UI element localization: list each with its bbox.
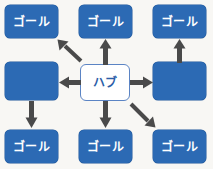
hub-and-spoke-diagram: ゴール ゴール ゴール ゴール ゴール ゴール ハブ [0, 0, 213, 169]
hub-label: ハブ [93, 77, 117, 89]
arrow-left-relay-to-bottom-left-icon [25, 101, 38, 128]
goal-node-top-left[interactable]: ゴール [5, 5, 58, 38]
arrow-right-relay-to-top-right-icon [173, 39, 186, 63]
arrow-hub-to-right-relay-icon [130, 76, 153, 89]
arrow-hub-to-bottom-center-icon [99, 101, 112, 128]
goal-node-bottom-left[interactable]: ゴール [5, 130, 58, 163]
relay-node-left[interactable] [5, 62, 58, 100]
goal-node-top-center[interactable]: ゴール [79, 5, 132, 38]
goal-label: ゴール [13, 141, 50, 153]
relay-node-right[interactable] [153, 62, 206, 100]
arrow-hub-to-top-left-icon [57, 39, 85, 65]
goal-label: ゴール [87, 141, 124, 153]
hub-node[interactable]: ハブ [80, 64, 130, 101]
arrow-hub-to-bottom-right-icon [128, 101, 156, 128]
goal-label: ゴール [87, 16, 124, 28]
goal-label: ゴール [161, 141, 198, 153]
goal-node-bottom-right[interactable]: ゴール [153, 130, 206, 163]
goal-label: ゴール [161, 16, 198, 28]
goal-node-top-right[interactable]: ゴール [153, 5, 206, 38]
arrow-hub-to-left-relay-icon [59, 76, 81, 89]
arrow-hub-to-top-center-icon [99, 39, 112, 65]
goal-node-bottom-center[interactable]: ゴール [79, 130, 132, 163]
goal-label: ゴール [13, 16, 50, 28]
